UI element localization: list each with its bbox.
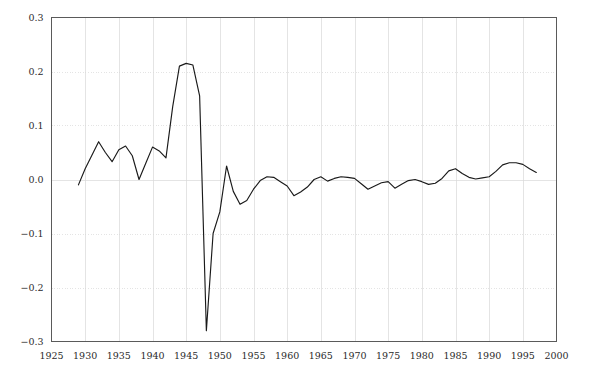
y-tick-label: 0.2 <box>28 66 43 77</box>
x-tick-label: 1970 <box>342 350 366 361</box>
x-tick-label: 1955 <box>241 350 265 361</box>
y-tick-label: −0.3 <box>20 336 43 347</box>
y-tick-label: 0.0 <box>28 174 43 185</box>
x-tick-label: 1940 <box>140 350 164 361</box>
x-tick-label: 1975 <box>376 350 400 361</box>
x-tick-label: 1965 <box>309 350 333 361</box>
x-tick-label: 1960 <box>275 350 299 361</box>
y-tick-label: −0.1 <box>20 228 43 239</box>
x-tick-label: 1980 <box>410 350 434 361</box>
y-tick-label: 0.3 <box>28 12 43 23</box>
plot-area-border <box>52 18 557 342</box>
data-series-line <box>78 63 536 330</box>
gridlines <box>52 18 557 342</box>
x-tick-label: 1925 <box>39 350 63 361</box>
chart-canvas: −0.3−0.2−0.10.00.10.20.3 192519301935194… <box>0 0 595 376</box>
y-tick-label: −0.2 <box>20 282 43 293</box>
x-tick-label: 1950 <box>208 350 232 361</box>
x-tick-label: 1990 <box>477 350 501 361</box>
x-tick-label: 1930 <box>73 350 97 361</box>
x-tick-label: 1935 <box>107 350 131 361</box>
x-tick-label: 2000 <box>544 350 568 361</box>
y-axis-tick-labels: −0.3−0.2−0.10.00.10.20.3 <box>20 12 43 347</box>
x-tick-label: 1985 <box>443 350 467 361</box>
x-tick-label: 1945 <box>174 350 198 361</box>
x-tick-label: 1995 <box>511 350 535 361</box>
y-tick-label: 0.1 <box>28 120 43 131</box>
x-axis-tick-labels: 1925193019351940194519501955196019651970… <box>39 350 568 361</box>
line-chart-figure: −0.3−0.2−0.10.00.10.20.3 192519301935194… <box>0 0 595 376</box>
